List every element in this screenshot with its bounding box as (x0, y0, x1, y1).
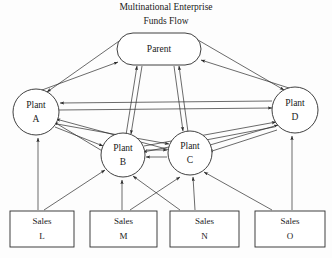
plant-a-label-line-2: A (33, 114, 40, 124)
plant-d-label-line-2: D (292, 112, 299, 122)
edge-parent-plant-a (42, 39, 122, 92)
edge-parent-plant-c (174, 66, 188, 132)
node-plant-b[interactable]: Plant B (101, 133, 145, 177)
edge-sales-o-plant-c (204, 172, 272, 210)
diagram-canvas: Multinational Enterprise Funds Flow (0, 0, 332, 258)
plant-b-label-line-2: B (120, 157, 126, 167)
plant-a-shape[interactable] (13, 89, 59, 135)
node-plant-c[interactable]: Plant C (168, 131, 212, 175)
node-sales-l[interactable]: Sales L (10, 211, 74, 247)
plant-d-shape[interactable] (272, 87, 318, 133)
title-line-1: Multinational Enterprise (119, 2, 212, 12)
funds-flow-diagram: Multinational Enterprise Funds Flow (0, 0, 332, 258)
node-parent[interactable]: Parent (117, 33, 201, 65)
sales-o-label-line-1: Sales (281, 216, 300, 226)
sales-m-label-line-2: M (119, 231, 127, 241)
edge-parent-plant-d (198, 40, 289, 90)
figure-title: Multinational Enterprise Funds Flow (119, 2, 212, 26)
plant-d-label-line-1: Plant (285, 98, 305, 108)
sales-o-label-line-2: O (287, 231, 294, 241)
title-line-2: Funds Flow (143, 16, 188, 26)
edge-plant-c-plant-d (209, 125, 278, 152)
node-plant-d[interactable]: Plant D (272, 87, 318, 133)
node-plant-a[interactable]: Plant A (13, 89, 59, 135)
sales-l-label-line-1: Sales (33, 216, 52, 226)
node-sales-m[interactable]: Sales M (90, 211, 157, 247)
edge-parent-plant-b (126, 66, 142, 135)
edge-plant-a-plant-d (59, 101, 272, 110)
sales-m-label-line-1: Sales (114, 216, 133, 226)
plant-b-label-line-1: Plant (113, 143, 133, 153)
edge-plant-a-plant-b (54, 122, 104, 152)
plant-c-label-line-1: Plant (180, 141, 200, 151)
edge-sales-n-plant-c (193, 177, 195, 210)
edge-sales-m-plant-c (130, 177, 180, 210)
node-sales-o[interactable]: Sales O (255, 211, 325, 247)
sales-n-label-line-2: N (201, 231, 208, 241)
plant-a-label-line-1: Plant (26, 100, 46, 110)
parent-label: Parent (147, 44, 172, 54)
sales-n-label-line-1: Sales (195, 216, 214, 226)
node-sales-n[interactable]: Sales N (170, 211, 239, 247)
edge-sales-n-plant-b (133, 176, 180, 210)
plant-c-shape[interactable] (168, 131, 212, 175)
sales-l-label-line-2: L (39, 231, 45, 241)
edge-sales-l-plant-b (44, 170, 105, 210)
plant-b-shape[interactable] (101, 133, 145, 177)
plant-c-label-line-2: C (187, 155, 193, 165)
